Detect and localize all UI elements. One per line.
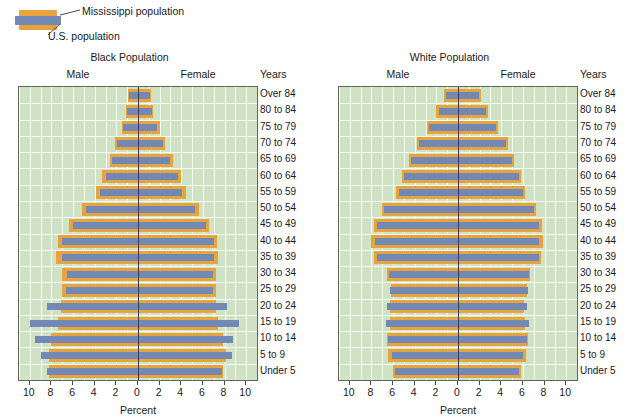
x-tick-mark bbox=[370, 381, 371, 385]
x-tick-label: 10 bbox=[339, 387, 359, 398]
legend-label-mississippi: Mississippi population bbox=[82, 6, 184, 17]
year-band-label: Over 84 bbox=[580, 89, 616, 99]
bar-us-female bbox=[138, 238, 214, 245]
x-tick-mark bbox=[522, 381, 523, 385]
x-tick-mark bbox=[180, 381, 181, 385]
bar-us-female bbox=[458, 157, 512, 164]
year-band-label: 25 to 29 bbox=[260, 284, 296, 294]
bar-us-female bbox=[138, 124, 157, 131]
x-tick-label: 2 bbox=[149, 387, 169, 398]
x-tick-label: 2 bbox=[105, 387, 125, 398]
bar-us-female bbox=[458, 238, 539, 245]
bar-us-female bbox=[458, 124, 496, 131]
x-tick-mark bbox=[414, 381, 415, 385]
year-band-label: 70 to 74 bbox=[260, 138, 296, 148]
year-band-label: 30 to 34 bbox=[260, 268, 296, 278]
x-tick-label: 8 bbox=[534, 387, 554, 398]
year-band-label: 45 to 49 bbox=[260, 219, 296, 229]
bar-us-male bbox=[66, 287, 138, 294]
x-tick-mark bbox=[29, 381, 30, 385]
year-band-label: 75 to 79 bbox=[580, 122, 616, 132]
x-tick-mark bbox=[115, 381, 116, 385]
year-band-label: Over 84 bbox=[260, 89, 296, 99]
bar-us-male bbox=[35, 336, 138, 343]
x-tick-mark bbox=[392, 381, 393, 385]
bar-us-female bbox=[138, 140, 163, 147]
bar-us-female bbox=[458, 352, 523, 359]
bar-us-female bbox=[138, 157, 170, 164]
bar-us-male bbox=[47, 303, 138, 310]
bar-us-male bbox=[399, 189, 459, 196]
x-tick-label: 0 bbox=[127, 387, 147, 398]
bar-us-male bbox=[62, 238, 138, 245]
x-tick-mark bbox=[457, 381, 458, 385]
bar-us-male bbox=[386, 320, 458, 327]
year-band-label: 40 to 44 bbox=[260, 236, 296, 246]
x-axis-title-white: Percent bbox=[338, 405, 578, 416]
year-band-label: 20 to 24 bbox=[260, 301, 296, 311]
bar-us-female bbox=[138, 206, 195, 213]
year-band-label: 50 to 54 bbox=[260, 203, 296, 213]
bar-us-female bbox=[138, 303, 227, 310]
year-band-label: 5 to 9 bbox=[580, 350, 605, 360]
center-axis-line bbox=[138, 87, 139, 380]
x-tick-mark bbox=[72, 381, 73, 385]
x-tick-label: 8 bbox=[360, 387, 380, 398]
gridline-vertical bbox=[577, 87, 578, 380]
axis-label-male-white: Male bbox=[338, 69, 458, 81]
bar-us-male bbox=[47, 368, 138, 375]
year-band-label: 30 to 34 bbox=[580, 268, 616, 278]
center-axis-line bbox=[458, 87, 459, 380]
year-band-label: 10 to 14 bbox=[260, 333, 296, 343]
bar-us-male bbox=[86, 206, 138, 213]
year-band-label: 20 to 24 bbox=[580, 301, 616, 311]
x-tick-label: 10 bbox=[235, 387, 255, 398]
bar-us-female bbox=[458, 92, 479, 99]
axis-label-female-black: Female bbox=[138, 69, 258, 81]
legend-label-us: U.S. population bbox=[48, 31, 120, 42]
bar-us-male bbox=[411, 157, 458, 164]
years-labels-white: Over 8480 to 8475 to 7970 to 7465 to 696… bbox=[580, 86, 627, 381]
bar-us-male bbox=[62, 254, 138, 261]
x-tick-label: 8 bbox=[214, 387, 234, 398]
chart-panel-black-population: Black Population Male Female Years Over … bbox=[0, 52, 307, 420]
x-tick-mark bbox=[50, 381, 51, 385]
bar-us-female bbox=[458, 206, 534, 213]
bar-us-female bbox=[458, 303, 527, 310]
x-axis-title-black: Percent bbox=[18, 405, 258, 416]
bar-us-female bbox=[138, 352, 232, 359]
x-tick-mark bbox=[435, 381, 436, 385]
bar-us-female bbox=[138, 287, 213, 294]
year-band-label: 55 to 59 bbox=[580, 187, 616, 197]
x-tick-mark bbox=[94, 381, 95, 385]
year-band-label: 25 to 29 bbox=[580, 284, 616, 294]
bar-us-female bbox=[138, 189, 182, 196]
bar-us-female bbox=[458, 173, 519, 180]
bar-us-male bbox=[112, 157, 138, 164]
bar-us-female bbox=[458, 189, 523, 196]
bar-us-male bbox=[129, 92, 138, 99]
bar-us-female bbox=[138, 173, 178, 180]
bar-us-female bbox=[138, 108, 152, 115]
year-band-label: 65 to 69 bbox=[580, 154, 616, 164]
bar-us-male bbox=[446, 92, 458, 99]
bar-us-female bbox=[138, 271, 213, 278]
x-tick-label: 6 bbox=[192, 387, 212, 398]
chart-title-black: Black Population bbox=[0, 52, 259, 63]
bar-us-male bbox=[384, 206, 458, 213]
bar-us-male bbox=[392, 352, 458, 359]
bar-us-female bbox=[138, 368, 222, 375]
bar-us-female bbox=[458, 336, 527, 343]
bar-us-female bbox=[458, 320, 529, 327]
bar-us-female bbox=[138, 336, 233, 343]
bar-us-male bbox=[127, 108, 138, 115]
x-tick-mark bbox=[479, 381, 480, 385]
x-tick-label: 4 bbox=[490, 387, 510, 398]
x-tick-label: 6 bbox=[512, 387, 532, 398]
year-band-label: 15 to 19 bbox=[580, 317, 616, 327]
year-band-label: 80 to 84 bbox=[580, 105, 616, 115]
chart-legend: Mississippi population U.S. population bbox=[0, 0, 320, 50]
x-tick-label: 10 bbox=[555, 387, 575, 398]
bar-us-male bbox=[30, 320, 138, 327]
bar-us-female bbox=[138, 320, 239, 327]
